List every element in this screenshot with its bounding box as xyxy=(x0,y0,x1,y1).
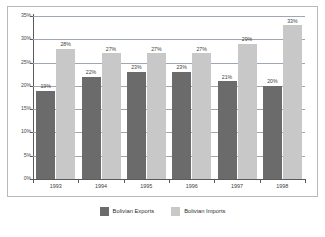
bar-group: 21%29% xyxy=(218,16,257,179)
y-tick-label: 5% xyxy=(7,153,31,158)
bar-value-label: 28% xyxy=(60,42,70,47)
x-tick-mark xyxy=(124,179,125,183)
bar-imports: 33% xyxy=(283,25,302,179)
bar-imports: 27% xyxy=(147,53,166,179)
bar-value-label: 21% xyxy=(222,75,232,80)
legend-label: Bolivian Imports xyxy=(184,209,225,215)
plot-area: 19%28%22%27%23%27%23%27%21%29%20%33% xyxy=(33,16,305,179)
x-tick-label-1995: 1995 xyxy=(126,184,166,189)
x-tick-label-1994: 1994 xyxy=(81,184,121,189)
legend-item-exports[interactable]: Bolivian Exports xyxy=(100,207,155,216)
bar-imports: 29% xyxy=(238,44,257,179)
bar-value-label: 27% xyxy=(196,47,206,52)
y-tick-label: 20% xyxy=(7,83,31,88)
bar-exports: 23% xyxy=(172,72,191,179)
y-tick-label: 15% xyxy=(7,106,31,111)
y-tick-label: 35% xyxy=(7,13,31,18)
bar-value-label: 22% xyxy=(86,70,96,75)
x-axis-ticks xyxy=(33,179,305,183)
chart-legend: Bolivian ExportsBolivian Imports xyxy=(0,207,325,216)
bar-exports: 19% xyxy=(36,91,55,179)
bar-imports: 28% xyxy=(56,49,75,179)
legend-swatch-icon xyxy=(171,207,180,216)
x-tick-mark xyxy=(305,179,306,183)
legend-swatch-icon xyxy=(100,207,109,216)
bar-imports: 27% xyxy=(192,53,211,179)
x-tick-label-1996: 1996 xyxy=(172,184,212,189)
x-tick-label-1997: 1997 xyxy=(217,184,257,189)
bar-value-label: 29% xyxy=(242,37,252,42)
bar-value-label: 23% xyxy=(176,65,186,70)
bar-exports: 22% xyxy=(82,77,101,179)
x-tick-mark xyxy=(33,179,34,183)
bar-exports: 23% xyxy=(127,72,146,179)
bar-exports: 20% xyxy=(263,86,282,179)
legend-label: Bolivian Exports xyxy=(113,209,155,215)
y-tick-label: 25% xyxy=(7,60,31,65)
bar-value-label: 27% xyxy=(151,47,161,52)
legend-item-imports[interactable]: Bolivian Imports xyxy=(171,207,225,216)
y-tick-label: 10% xyxy=(7,129,31,134)
x-tick-mark xyxy=(78,179,79,183)
x-tick-mark xyxy=(260,179,261,183)
bar-group: 19%28% xyxy=(36,16,75,179)
bar-value-label: 19% xyxy=(40,84,50,89)
x-tick-mark xyxy=(169,179,170,183)
bar-value-label: 33% xyxy=(287,19,297,24)
bar-exports: 21% xyxy=(218,81,237,179)
x-tick-mark xyxy=(214,179,215,183)
bar-group: 20%33% xyxy=(263,16,302,179)
x-tick-label-1993: 1993 xyxy=(36,184,76,189)
bar-group: 22%27% xyxy=(82,16,121,179)
y-tick-label: 30% xyxy=(7,36,31,41)
chart-figure: 0%5%10%15%20%25%30%35% 19%28%22%27%23%27… xyxy=(0,0,325,237)
bar-value-label: 27% xyxy=(106,47,116,52)
bar-value-label: 23% xyxy=(131,65,141,70)
bar-value-label: 20% xyxy=(267,79,277,84)
y-tick-label: 0% xyxy=(7,176,31,181)
x-tick-label-1998: 1998 xyxy=(262,184,302,189)
bar-imports: 27% xyxy=(102,53,121,179)
bar-group: 23%27% xyxy=(172,16,211,179)
bar-group: 23%27% xyxy=(127,16,166,179)
